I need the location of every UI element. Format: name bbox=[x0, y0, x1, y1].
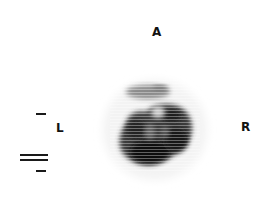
label-right: R bbox=[241, 121, 250, 133]
scan-image: A L R bbox=[0, 0, 264, 207]
label-left: L bbox=[56, 122, 64, 134]
scale-bar-dash bbox=[36, 170, 46, 172]
left-dash-marker bbox=[36, 113, 46, 115]
label-anterior: A bbox=[152, 26, 161, 38]
uptake-region bbox=[0, 0, 264, 207]
scale-bar-line-1 bbox=[20, 154, 48, 156]
scale-bar-line-2 bbox=[20, 159, 48, 161]
